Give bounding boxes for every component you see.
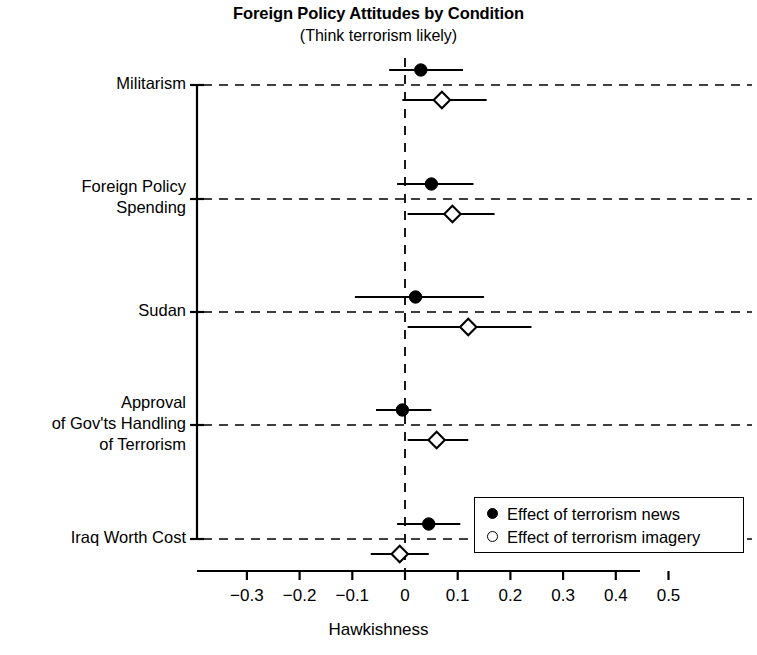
y-axis-label-1: Foreign PolicySpending (81, 176, 186, 218)
filled-circle-marker (396, 404, 408, 416)
x-axis-tick-label-3: 0 (375, 586, 435, 606)
y-axis-label-4: Iraq Worth Cost (71, 527, 186, 548)
filled-circle-marker (409, 291, 421, 303)
y-axis-label-line: Spending (81, 197, 186, 218)
chart-legend: Effect of terrorism news Effect of terro… (474, 497, 744, 553)
y-axis-label-2: Sudan (138, 300, 186, 321)
data-points-group (355, 64, 532, 562)
plot-area (0, 0, 757, 655)
gridlines-group (203, 85, 752, 539)
x-axis-tick-label-5: 0.2 (480, 586, 540, 606)
chart-figure: Foreign Policy Attitudes by Condition (T… (0, 0, 757, 655)
y-axis-label-line: Sudan (138, 300, 186, 321)
x-axis-tick-label-8: 0.5 (639, 586, 699, 606)
x-axis-label: Hawkishness (0, 620, 757, 640)
legend-item-news: Effect of terrorism news (487, 504, 680, 524)
filled-circle-marker (423, 518, 435, 530)
x-axis-tick-label-4: 0.1 (428, 586, 488, 606)
legend-label-imagery: Effect of terrorism imagery (507, 528, 700, 546)
y-axis-label-line: of Gov'ts Handling (52, 413, 186, 434)
x-axis-tick-label-0: −0.3 (217, 586, 277, 606)
y-axis-label-line: Approval (52, 392, 186, 413)
y-axis-label-line: Iraq Worth Cost (71, 527, 186, 548)
y-axis-label-3: Approvalof Gov'ts Handlingof Terrorism (52, 392, 186, 455)
x-axis-tick-label-2: −0.1 (322, 586, 382, 606)
x-axis-tick-label-7: 0.4 (586, 586, 646, 606)
open-diamond-marker (434, 92, 450, 108)
y-axis-label-0: Militarism (116, 73, 186, 94)
filled-circle-marker (425, 178, 437, 190)
legend-item-imagery: Effect of terrorism imagery (487, 527, 700, 547)
open-circle-icon (487, 531, 498, 542)
open-diamond-marker (444, 206, 460, 222)
filled-circle-icon (487, 508, 498, 519)
x-axis-tick-label-1: −0.2 (270, 586, 330, 606)
x-axis-tick-label-6: 0.3 (533, 586, 593, 606)
open-diamond-marker (460, 319, 476, 335)
open-diamond-marker (428, 432, 444, 448)
y-axis-label-line: Foreign Policy (81, 176, 186, 197)
legend-label-news: Effect of terrorism news (507, 505, 680, 523)
y-axis-label-line: Militarism (116, 73, 186, 94)
y-axis-label-line: of Terrorism (52, 434, 186, 455)
filled-circle-marker (415, 64, 427, 76)
